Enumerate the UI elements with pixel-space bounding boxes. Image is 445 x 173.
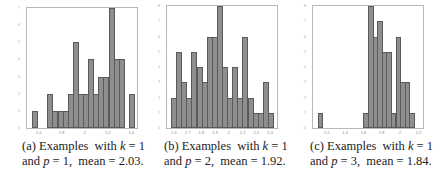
y-tick-label: 1 bbox=[158, 111, 160, 115]
caption-label: (c) bbox=[310, 139, 324, 153]
caption-label: (b) bbox=[164, 139, 179, 153]
histogram-c: 0123456781.21.41.61.822.2 bbox=[312, 5, 424, 129]
x-tick-label: 1.8 bbox=[379, 130, 385, 135]
x-tick-label: 1.6 bbox=[171, 130, 177, 135]
y-tick-label: 0 bbox=[304, 126, 306, 130]
y-tick-label: 2 bbox=[18, 92, 20, 96]
y-tick-label: 5 bbox=[304, 50, 306, 54]
caption-text: = 1 bbox=[413, 139, 433, 153]
panel-b: 0123456781.61.71.81.922.12.22.3 (b) Exam… bbox=[148, 0, 296, 173]
y-tick-label: 0 bbox=[18, 126, 20, 130]
x-tick-label: 1.6 bbox=[361, 130, 367, 135]
histogram-bar bbox=[32, 111, 38, 128]
y-tick-label: 8 bbox=[304, 4, 306, 8]
x-tick-label: 1.2 bbox=[324, 130, 330, 135]
histogram-bar bbox=[318, 113, 324, 128]
y-tick-label: 3 bbox=[158, 80, 160, 84]
y-tick-label: 3 bbox=[304, 80, 306, 84]
y-tick-label: 2 bbox=[158, 96, 160, 100]
y-tick-label: 6 bbox=[304, 35, 306, 39]
x-tick-label: 1.8 bbox=[199, 130, 205, 135]
caption-text: Examples with bbox=[327, 139, 408, 153]
x-tick-label: 2 bbox=[399, 130, 401, 135]
x-tick-label: 2.1 bbox=[240, 130, 246, 135]
histogram-a: 012345671.61.822.22.4 bbox=[26, 7, 138, 129]
x-tick-label: 2 bbox=[84, 130, 86, 135]
x-tick-label: 2.2 bbox=[254, 130, 260, 135]
caption-label: (a) bbox=[22, 139, 36, 153]
x-tick-label: 2.3 bbox=[267, 130, 273, 135]
x-tick-label: 2.4 bbox=[128, 130, 134, 135]
x-tick-label: 1.9 bbox=[212, 130, 218, 135]
x-tick-label: 2 bbox=[228, 130, 230, 135]
y-tick-label: 7 bbox=[18, 6, 20, 10]
caption-text: Examples with bbox=[39, 139, 120, 153]
y-tick-label: 4 bbox=[158, 65, 160, 69]
histogram-bar bbox=[129, 94, 135, 128]
caption-text: = 1 bbox=[268, 139, 288, 153]
x-tick-label: 1.4 bbox=[342, 130, 348, 135]
caption-text: and bbox=[164, 154, 185, 168]
y-tick-label: 1 bbox=[304, 111, 306, 115]
y-tick-label: 4 bbox=[304, 65, 306, 69]
x-tick-label: 1.7 bbox=[185, 130, 191, 135]
y-tick-label: 1 bbox=[18, 109, 20, 113]
caption-text: and bbox=[22, 154, 43, 168]
caption-text: = 1, mean = 2.03. bbox=[49, 154, 143, 168]
caption-b: (b) Examples with k = 1 and p = 2, mean … bbox=[164, 139, 288, 169]
y-tick-label: 4 bbox=[18, 57, 20, 61]
caption-c: (c) Examples with k = 1 and p = 3, mean … bbox=[310, 139, 433, 169]
caption-text: Examples with bbox=[182, 139, 263, 153]
y-tick-label: 2 bbox=[304, 96, 306, 100]
caption-text: = 2, mean = 1.92. bbox=[191, 154, 285, 168]
panel-c: 0123456781.21.41.61.822.2 (c) Examples w… bbox=[296, 0, 444, 173]
x-tick-label: 1.6 bbox=[36, 130, 42, 135]
x-tick-label: 1.8 bbox=[59, 130, 65, 135]
panel-a: 012345671.61.822.22.4 (a) Examples with … bbox=[0, 0, 148, 173]
histogram-bar bbox=[409, 113, 415, 128]
caption-text: = 1 bbox=[125, 139, 145, 153]
caption-text: = 3, mean = 1.84. bbox=[337, 154, 431, 168]
x-tick-label: 2.2 bbox=[105, 130, 111, 135]
y-tick-label: 3 bbox=[18, 75, 20, 79]
y-tick-label: 7 bbox=[158, 19, 160, 23]
y-tick-label: 8 bbox=[158, 4, 160, 8]
caption-a: (a) Examples with k = 1 and p = 1, mean … bbox=[22, 139, 145, 169]
y-tick-label: 6 bbox=[158, 35, 160, 39]
caption-text: and bbox=[310, 154, 331, 168]
histogram-bar bbox=[268, 113, 274, 128]
y-tick-label: 0 bbox=[158, 126, 160, 130]
histogram-b: 0123456781.61.71.81.922.12.22.3 bbox=[166, 5, 278, 129]
y-tick-label: 6 bbox=[18, 23, 20, 27]
x-tick-label: 2.2 bbox=[416, 130, 422, 135]
y-tick-label: 5 bbox=[18, 40, 20, 44]
histogram-bar bbox=[119, 59, 125, 128]
y-tick-label: 7 bbox=[304, 19, 306, 23]
y-tick-label: 5 bbox=[158, 50, 160, 54]
